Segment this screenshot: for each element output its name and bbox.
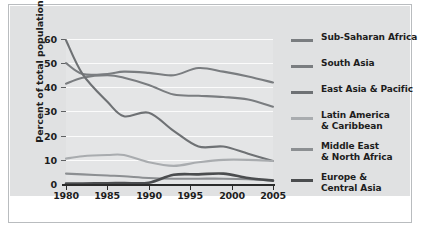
x-tick-label-1980: 1980 — [49, 190, 83, 201]
y-tick-label-0: 0 — [35, 179, 57, 190]
legend-label-middle-east-north-africa: Middle East & North Africa — [321, 141, 392, 163]
legend-item-middle-east-north-africa[interactable]: Middle East & North Africa — [291, 141, 413, 172]
legend-item-east-asia-pacific[interactable]: East Asia & Pacific — [291, 84, 413, 110]
legend-label-line1: Europe & — [321, 172, 381, 183]
series-line — [66, 154, 273, 165]
x-tick-label-1995: 1995 — [173, 190, 207, 201]
legend-swatch-middle-east-north-africa — [291, 148, 313, 151]
legend-label-europe-central-asia: Europe & Central Asia — [321, 172, 381, 194]
legend-swatch-east-asia-pacific — [291, 91, 313, 94]
legend-label-east-asia-pacific: East Asia & Pacific — [321, 84, 413, 95]
series-line — [66, 63, 273, 82]
y-tick-label-30: 30 — [35, 106, 57, 117]
legend-item-latin-america-caribbean[interactable]: Latin America & Caribbean — [291, 110, 413, 141]
series-line — [66, 40, 273, 161]
x-tick-label-2005: 2005 — [256, 190, 290, 201]
y-tick-label-40: 40 — [35, 82, 57, 93]
chart-panel: Percent of total population 60 50 40 30 … — [10, 6, 410, 196]
legend-label-line1: Middle East — [321, 141, 392, 152]
legend-item-europe-central-asia[interactable]: Europe & Central Asia — [291, 172, 413, 203]
figure: Percent of total population 60 50 40 30 … — [0, 0, 421, 233]
x-tick-label-2000: 2000 — [215, 190, 249, 201]
x-tick-label-1985: 1985 — [90, 190, 124, 201]
legend-swatch-south-asia — [291, 65, 313, 68]
legend-label-south-asia: South Asia — [321, 58, 374, 69]
legend-label-line1: East Asia & Pacific — [321, 84, 413, 95]
legend-label-line2: & Caribbean — [321, 121, 390, 132]
legend-swatch-sub-saharan-africa — [291, 39, 313, 42]
x-axis-line — [62, 184, 275, 186]
x-tick-label-1990: 1990 — [132, 190, 166, 201]
series-lines — [66, 39, 273, 184]
legend-label-line2: Central Asia — [321, 183, 381, 194]
legend-swatch-europe-central-asia — [291, 179, 313, 182]
y-tick-label-60: 60 — [35, 34, 57, 45]
legend-label-line1: Sub-Saharan Africa — [321, 32, 417, 43]
legend-label-latin-america-caribbean: Latin America & Caribbean — [321, 110, 390, 132]
legend-swatch-latin-america-caribbean — [291, 117, 313, 120]
y-tick-label-50: 50 — [35, 58, 57, 69]
legend: Sub-Saharan Africa South Asia East Asia … — [291, 32, 413, 203]
legend-label-line1: Latin America — [321, 110, 390, 121]
y-axis-label: Percent of total population — [34, 0, 45, 147]
y-tick-label-10: 10 — [35, 155, 57, 166]
legend-label-line2: & North Africa — [321, 152, 392, 163]
legend-label-sub-saharan-africa: Sub-Saharan Africa — [321, 32, 417, 43]
legend-label-line1: South Asia — [321, 58, 374, 69]
legend-item-sub-saharan-africa[interactable]: Sub-Saharan Africa — [291, 32, 413, 58]
plot-area — [66, 39, 273, 184]
y-tick-label-20: 20 — [35, 131, 57, 142]
legend-item-south-asia[interactable]: South Asia — [291, 58, 413, 84]
